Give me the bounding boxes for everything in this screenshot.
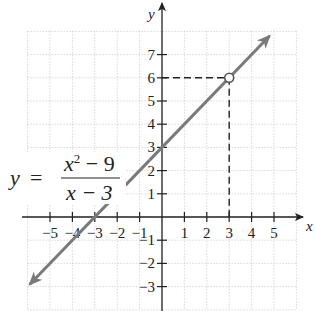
- y-axis-label: y: [146, 6, 155, 22]
- x-tick-label: 1: [181, 225, 189, 241]
- x-tick-label: −3: [87, 225, 103, 241]
- x-axis-label: x: [305, 218, 313, 234]
- y-tick-label: −1: [139, 232, 155, 248]
- x-tick-label: 4: [248, 225, 256, 241]
- x-tick-label: −2: [109, 225, 125, 241]
- equation-annotation: y = x2 − 9 x − 3: [8, 151, 126, 205]
- equation-lhs: y: [8, 165, 20, 190]
- y-tick-label: 4: [148, 116, 156, 132]
- open-circle-hole: [225, 73, 234, 82]
- x-tick-label: 3: [225, 225, 233, 241]
- x-tick-label: −5: [42, 225, 58, 241]
- x-tick-label: 2: [203, 225, 211, 241]
- numerator-base: x: [63, 151, 74, 176]
- y-tick-label: 2: [148, 163, 156, 179]
- y-tick-label: 7: [148, 47, 156, 63]
- equation-numerator: x2 − 9: [63, 151, 115, 176]
- numerator-rest: − 9: [80, 151, 114, 176]
- y-tick-label: 3: [148, 139, 156, 155]
- y-tick-label: 6: [148, 70, 156, 86]
- graph-canvas: −5−4−3−2−112345−3−2−11234567 y x y = x2 …: [0, 0, 315, 311]
- equation-equals: =: [30, 165, 42, 190]
- y-tick-label: 5: [148, 93, 156, 109]
- y-tick-label: −2: [139, 255, 155, 271]
- equation-denominator: x − 3: [65, 180, 113, 205]
- y-tick-label: 1: [148, 186, 156, 202]
- x-tick-label: 5: [270, 225, 278, 241]
- y-tick-label: −3: [139, 279, 155, 295]
